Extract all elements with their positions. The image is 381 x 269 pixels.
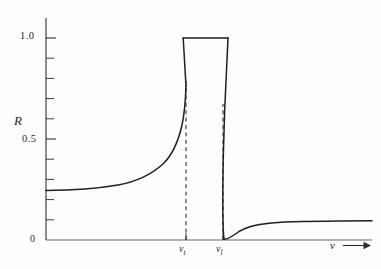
x-tick-nu-t-subscript: t xyxy=(183,248,185,257)
x-tick-label-nu-t: νt xyxy=(179,244,186,257)
plot-canvas xyxy=(0,0,381,269)
y-tick-label-0: 0 xyxy=(30,234,35,244)
y-axis-title: R xyxy=(14,114,22,127)
curve-upper-branch xyxy=(224,221,372,240)
x-axis-arrow-icon xyxy=(343,242,371,249)
y-tick-label-1-0: 1.0 xyxy=(20,31,34,42)
curve-rise-at-nu-t xyxy=(183,38,186,86)
x-axis-title: ν xyxy=(330,240,335,251)
y-major-ticks xyxy=(46,38,56,139)
x-tick-nu-l-subscript: l xyxy=(220,248,222,257)
reflectivity-figure: R 1.0 0.5 0 νt νl ν xyxy=(0,0,381,269)
y-tick-label-0-5: 0.5 xyxy=(22,134,36,145)
x-ticks xyxy=(186,233,223,240)
curve-lower-branch xyxy=(46,86,186,191)
x-tick-label-nu-l: νl xyxy=(216,244,223,257)
curve-fall-at-nu-l xyxy=(223,38,228,239)
